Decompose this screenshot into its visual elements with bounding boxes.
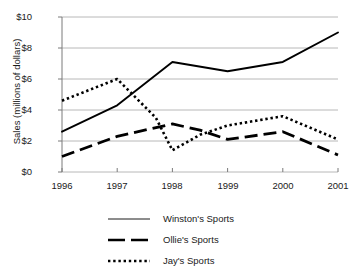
axis-ticks xyxy=(58,17,338,172)
dotted-line-swatch xyxy=(106,254,152,268)
gridlines xyxy=(62,17,338,172)
legend-label-jays: Jay's Sports xyxy=(163,255,214,266)
series-lines xyxy=(62,33,338,157)
legend-label-ollies: Ollie's Sports xyxy=(163,234,219,245)
legend-item-jays: Jay's Sports xyxy=(106,250,336,271)
legend-item-winstons: Winston's Sports xyxy=(106,208,336,229)
series-line-jay-s-sports xyxy=(62,79,338,150)
series-line-ollie-s-sports xyxy=(62,124,338,157)
legend-label-winstons: Winston's Sports xyxy=(163,213,234,224)
series-line-winston-s-sports xyxy=(62,33,338,132)
line-chart: Sales (millions of dollars) $10 $8 $6 $4… xyxy=(0,0,356,272)
legend-item-ollies: Ollie's Sports xyxy=(106,229,336,250)
legend: Winston's Sports Ollie's Sports Jay's Sp… xyxy=(106,208,336,271)
thin-solid-line-swatch xyxy=(106,212,152,226)
thick-dashed-line-swatch xyxy=(106,233,152,247)
